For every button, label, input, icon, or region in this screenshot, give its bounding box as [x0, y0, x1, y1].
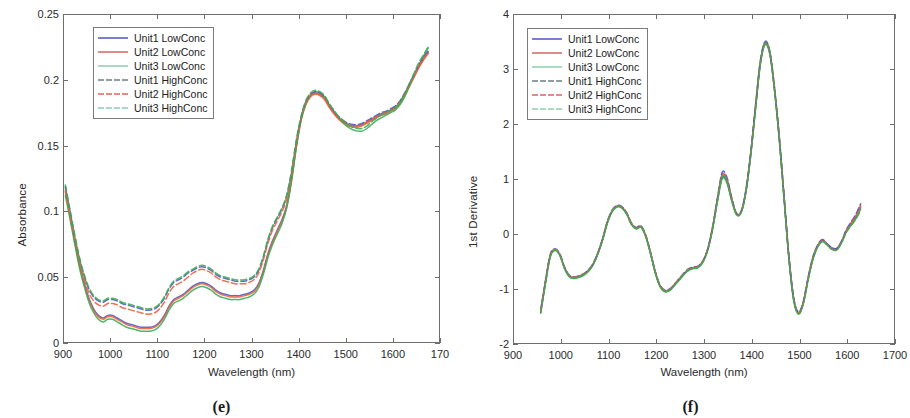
legend-item[interactable]: Unit1 LowConc — [98, 31, 208, 45]
x-tick-mark — [440, 338, 441, 343]
y-tick-mark — [435, 277, 440, 278]
x-tick-mark — [299, 14, 300, 19]
plot-area-derivative: Unit1 LowConcUnit2 LowConcUnit3 LowConcU… — [513, 14, 895, 344]
x-tick-mark — [440, 14, 441, 19]
y-tick-mark — [63, 343, 68, 344]
y-tick-label: 0 — [469, 228, 509, 240]
legend-item[interactable]: Unit3 LowConc — [98, 59, 208, 73]
y-tick-mark — [63, 80, 68, 81]
legend-item[interactable]: Unit1 HighConc — [98, 73, 208, 87]
y-tick-label: 0.2 — [19, 74, 59, 86]
x-tick-label: 1100 — [145, 348, 169, 360]
x-tick-label: 1000 — [549, 349, 573, 361]
x-tick-label: 900 — [54, 348, 72, 360]
y-tick-mark — [513, 234, 518, 235]
legend-item[interactable]: Unit3 HighConc — [532, 102, 642, 116]
y-tick-label: 0.05 — [19, 271, 59, 283]
y-tick-label: 4 — [469, 8, 509, 20]
x-tick-mark — [561, 14, 562, 19]
y-tick-mark — [435, 146, 440, 147]
x-tick-mark — [704, 339, 705, 344]
x-tick-mark — [346, 14, 347, 19]
x-tick-label: 1400 — [286, 348, 310, 360]
y-tick-label: -1 — [469, 283, 509, 295]
legend-item-label: Unit1 HighConc — [134, 74, 208, 86]
x-tick-mark — [800, 14, 801, 19]
x-tick-mark — [204, 14, 205, 19]
x-tick-label: 1200 — [192, 348, 216, 360]
legend-item[interactable]: Unit2 LowConc — [98, 45, 208, 59]
panel-caption-e: (e) — [0, 398, 449, 416]
y-tick-label: 2 — [469, 118, 509, 130]
x-tick-mark — [157, 14, 158, 19]
legend-item-label: Unit3 LowConc — [568, 61, 639, 73]
x-tick-label: 1100 — [597, 349, 621, 361]
legend-item[interactable]: Unit2 HighConc — [98, 87, 208, 101]
legend-item-label: Unit1 LowConc — [134, 32, 205, 44]
x-tick-mark — [346, 338, 347, 343]
legend-color-swatch — [532, 38, 562, 40]
legend-item-label: Unit2 HighConc — [134, 88, 208, 100]
plot-area-absorbance: Unit1 LowConcUnit2 LowConcUnit3 LowConcU… — [63, 14, 440, 343]
legend-item[interactable]: Unit2 HighConc — [532, 88, 642, 102]
y-tick-label: 3 — [469, 63, 509, 75]
legend-color-swatch — [532, 94, 562, 96]
x-tick-mark — [895, 339, 896, 344]
x-tick-mark — [204, 338, 205, 343]
legend-item-label: Unit3 HighConc — [134, 102, 208, 114]
y-tick-mark — [513, 289, 518, 290]
y-tick-mark — [513, 69, 518, 70]
x-tick-mark — [704, 14, 705, 19]
x-tick-mark — [110, 338, 111, 343]
x-tick-label: 1000 — [98, 348, 122, 360]
legend-item-label: Unit3 HighConc — [568, 103, 642, 115]
x-tick-mark — [393, 338, 394, 343]
legend-color-swatch — [532, 66, 562, 68]
x-tick-label: 1600 — [835, 349, 859, 361]
legend-item-label: Unit2 HighConc — [568, 89, 642, 101]
y-tick-mark — [890, 124, 895, 125]
legend-item-label: Unit1 LowConc — [568, 33, 639, 45]
legend-color-swatch — [532, 52, 562, 54]
y-tick-mark — [435, 211, 440, 212]
legend-color-swatch — [98, 51, 128, 53]
y-tick-mark — [513, 344, 518, 345]
x-tick-label: 1500 — [787, 349, 811, 361]
panel-first-derivative: Unit1 LowConcUnit2 LowConcUnit3 LowConcU… — [455, 0, 910, 418]
figure-container: Unit1 LowConcUnit2 LowConcUnit3 LowConcU… — [0, 0, 910, 418]
legend-item[interactable]: Unit2 LowConc — [532, 46, 642, 60]
y-tick-mark — [890, 69, 895, 70]
y-tick-mark — [63, 277, 68, 278]
legend-color-swatch — [98, 107, 128, 109]
x-tick-label: 170 — [431, 348, 449, 360]
x-tick-mark — [609, 339, 610, 344]
x-tick-mark — [752, 339, 753, 344]
legend-item-label: Unit1 HighConc — [568, 75, 642, 87]
x-tick-mark — [656, 14, 657, 19]
x-tick-label: 1500 — [334, 348, 358, 360]
legend-item-label: Unit2 LowConc — [568, 47, 639, 59]
legend-item[interactable]: Unit3 HighConc — [98, 101, 208, 115]
x-tick-mark — [252, 14, 253, 19]
x-tick-mark — [847, 14, 848, 19]
y-tick-label: 0.25 — [19, 8, 59, 20]
legend-item[interactable]: Unit1 LowConc — [532, 32, 642, 46]
x-tick-label: 1700 — [883, 349, 907, 361]
x-tick-mark — [895, 14, 896, 19]
x-tick-label: 1300 — [692, 349, 716, 361]
legend-color-swatch — [532, 108, 562, 110]
legend-item[interactable]: Unit1 HighConc — [532, 74, 642, 88]
y-tick-mark — [890, 289, 895, 290]
legend-color-swatch — [532, 80, 562, 82]
x-tick-label: 1400 — [740, 349, 764, 361]
legend-item-label: Unit2 LowConc — [134, 46, 205, 58]
y-tick-mark — [890, 234, 895, 235]
x-tick-mark — [847, 339, 848, 344]
y-tick-mark — [435, 80, 440, 81]
y-tick-label: 0.1 — [19, 205, 59, 217]
x-axis-label-absorbance: Wavelength (nm) — [63, 366, 440, 378]
x-tick-label: 1600 — [381, 348, 405, 360]
legend-item[interactable]: Unit3 LowConc — [532, 60, 642, 74]
x-tick-mark — [110, 14, 111, 19]
x-tick-mark — [393, 14, 394, 19]
